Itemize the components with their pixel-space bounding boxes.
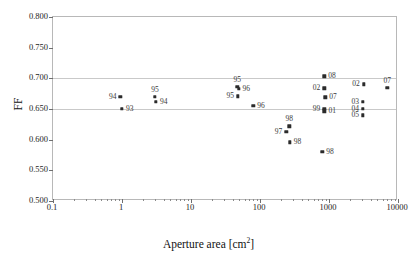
data-point — [323, 96, 326, 99]
x-tick-minor-mark — [239, 199, 240, 201]
data-point-label: 01 — [328, 107, 336, 115]
data-point-label: 99 — [313, 105, 321, 113]
data-point — [362, 83, 365, 86]
x-tick-minor-mark — [115, 199, 116, 201]
scatter-chart-figure: 9493959495969596989798080207990198020304… — [0, 0, 417, 271]
gridline — [53, 78, 396, 79]
y-axis-title: FF — [12, 74, 24, 134]
x-tick-minor-mark — [326, 199, 327, 201]
data-point-label: 94 — [160, 98, 168, 106]
x-tick-label: 10 — [186, 202, 195, 212]
x-axis-tick-labels: 0.1110100100010000 — [52, 202, 397, 216]
data-point-label: 08 — [328, 72, 336, 80]
x-tick-minor-mark — [74, 199, 75, 201]
x-tick-minor-mark — [249, 199, 250, 201]
x-tick-minor-mark — [281, 199, 282, 201]
data-point — [120, 107, 123, 110]
data-point — [323, 110, 326, 113]
x-tick-label: 1 — [119, 202, 123, 212]
x-tick-minor-mark — [143, 199, 144, 201]
x-tick-minor-mark — [95, 199, 96, 201]
data-point — [361, 100, 364, 103]
data-point — [236, 94, 239, 97]
data-point — [153, 95, 156, 98]
data-point-label: 05 — [351, 111, 359, 119]
x-tick-minor-mark — [253, 199, 254, 201]
gridline — [53, 109, 396, 110]
x-tick-minor-mark — [314, 199, 315, 201]
x-tick-minor-mark — [184, 199, 185, 201]
x-tick-minor-mark — [293, 199, 294, 201]
x-tick-minor-mark — [308, 199, 309, 201]
data-point — [285, 130, 288, 133]
x-tick-minor-mark — [395, 199, 396, 201]
x-axis-title-text: Aperture area [cm — [163, 238, 247, 250]
data-point — [288, 140, 291, 143]
y-tick-label: 0.750 — [29, 42, 48, 51]
x-tick-minor-mark — [119, 199, 120, 201]
x-axis-title: Aperture area [cm2] — [0, 236, 417, 250]
x-tick-minor-mark — [391, 199, 392, 201]
data-point — [237, 87, 240, 90]
y-tick-label: 0.650 — [29, 104, 48, 113]
x-tick-minor-mark — [245, 199, 246, 201]
data-point-label: 98 — [294, 138, 302, 146]
data-point-label: 94 — [109, 93, 117, 101]
x-tick-minor-mark — [107, 199, 108, 201]
x-tick-minor-mark — [387, 199, 388, 201]
data-point — [288, 124, 291, 127]
x-tick-minor-mark — [318, 199, 319, 201]
data-point — [386, 86, 389, 89]
y-tick-mark — [49, 17, 53, 18]
x-tick-minor-mark — [111, 199, 112, 201]
y-tick-label: 0.550 — [29, 165, 48, 174]
x-tick-minor-mark — [224, 199, 225, 201]
x-tick-minor-mark — [362, 199, 363, 201]
x-tick-minor-mark — [302, 199, 303, 201]
x-tick-minor-mark — [377, 199, 378, 201]
y-tick-mark — [49, 78, 53, 79]
data-point-label: 96 — [257, 102, 265, 110]
x-tick-minor-mark — [155, 199, 156, 201]
data-point — [361, 113, 364, 116]
data-point — [361, 107, 364, 110]
data-point-label: 93 — [126, 105, 134, 113]
data-point-label: 95 — [227, 92, 235, 100]
data-point — [322, 86, 325, 89]
y-tick-mark — [49, 140, 53, 141]
x-tick-minor-mark — [233, 199, 234, 201]
x-tick-label: 10000 — [386, 202, 407, 212]
data-point-label: 98 — [285, 115, 293, 123]
y-tick-label: 0.600 — [29, 134, 48, 143]
x-tick-minor-mark — [170, 199, 171, 201]
x-tick-label: 0.1 — [47, 202, 58, 212]
data-point — [321, 150, 324, 153]
y-tick-mark — [49, 170, 53, 171]
x-tick-minor-mark — [212, 199, 213, 201]
x-tick-minor-mark — [322, 199, 323, 201]
x-tick-label: 1000 — [320, 202, 337, 212]
x-tick-minor-mark — [86, 199, 87, 201]
y-tick-mark — [49, 48, 53, 49]
data-point-label: 07 — [329, 93, 337, 101]
x-tick-minor-mark — [350, 199, 351, 201]
x-tick-minor-mark — [371, 199, 372, 201]
y-tick-label: 0.800 — [29, 12, 48, 21]
x-tick-minor-mark — [257, 199, 258, 201]
data-point-label: 96 — [243, 85, 251, 93]
data-point-label: 07 — [384, 77, 392, 85]
x-tick-minor-mark — [176, 199, 177, 201]
x-tick-minor-mark — [383, 199, 384, 201]
data-point-label: 02 — [313, 84, 321, 92]
data-point-label: 02 — [352, 80, 360, 88]
plot-area: 9493959495969596989798080207990198020304… — [52, 16, 397, 200]
data-point-label: 98 — [326, 148, 334, 156]
x-axis-title-bracket: ] — [250, 238, 254, 250]
data-point — [119, 95, 122, 98]
data-point-label: 97 — [275, 128, 283, 136]
y-tick-label: 0.500 — [29, 196, 48, 205]
data-point — [154, 100, 157, 103]
data-point — [252, 104, 255, 107]
data-point-label: 95 — [151, 86, 159, 94]
x-tick-minor-mark — [101, 199, 102, 201]
